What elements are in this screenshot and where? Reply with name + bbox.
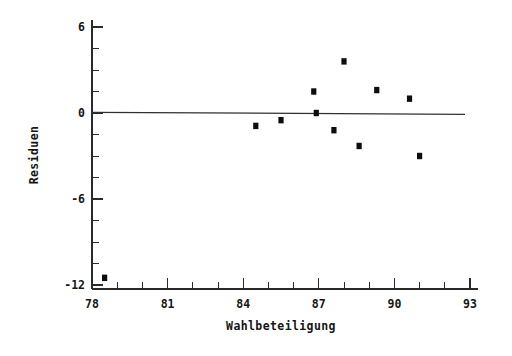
y-tick-label-0: 0 [78, 106, 85, 120]
data-point [253, 123, 258, 129]
data-point [311, 88, 316, 94]
x-axis-minor-ticks [117, 282, 445, 289]
x-tick-label-84: 84 [236, 297, 250, 311]
data-point-group [102, 58, 422, 281]
y-tick-label-neg6: -6 [71, 192, 85, 206]
data-point [341, 58, 346, 64]
x-axis-major-ticks [92, 278, 470, 289]
residual-plot-figure: 6 0 -6 -12 78 81 84 87 90 93 Wahlbeteili… [0, 0, 512, 356]
x-tick-label-93: 93 [463, 297, 477, 311]
data-point [314, 110, 319, 116]
data-point [278, 117, 283, 123]
data-point [374, 87, 379, 93]
data-point [417, 153, 422, 159]
y-tick-label-6: 6 [78, 20, 85, 34]
x-tick-label-81: 81 [161, 297, 175, 311]
data-point [102, 275, 107, 281]
data-point [331, 127, 336, 133]
x-axis-title: Wahlbeteiligung [226, 319, 336, 333]
y-axis-minor-ticks [92, 49, 99, 264]
x-tick-label-90: 90 [387, 297, 401, 311]
data-point [357, 143, 362, 149]
x-tick-label-78: 78 [85, 297, 99, 311]
zero-residual-line [92, 112, 465, 114]
data-point [407, 95, 412, 101]
x-tick-label-87: 87 [312, 297, 326, 311]
y-tick-label-neg12: -12 [64, 278, 85, 292]
y-axis-title: Residuen [27, 126, 41, 185]
scatter-plot-canvas: 6 0 -6 -12 78 81 84 87 90 93 Wahlbeteili… [0, 0, 512, 356]
